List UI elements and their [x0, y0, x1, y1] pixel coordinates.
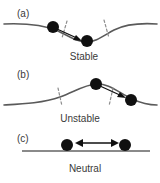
ball-on-slope-b: [125, 94, 137, 106]
ball-right-c: [119, 139, 131, 151]
panel-c-caption: Neutral: [69, 163, 101, 174]
panel-b-caption: Unstable: [60, 113, 100, 124]
panel-c-label: (c): [17, 133, 29, 144]
panel-a-label: (a): [17, 8, 29, 19]
ball-on-slope-a: [47, 21, 59, 33]
ball-left-c: [61, 139, 73, 151]
ball-at-minimum-a: [81, 35, 93, 47]
figure-background: [0, 0, 160, 183]
panel-b-label: (b): [17, 69, 29, 80]
equilibrium-types-figure: (a) Stable (b) Unst: [0, 0, 160, 183]
ball-at-peak-b: [90, 78, 102, 90]
panel-a-caption: Stable: [70, 51, 99, 62]
